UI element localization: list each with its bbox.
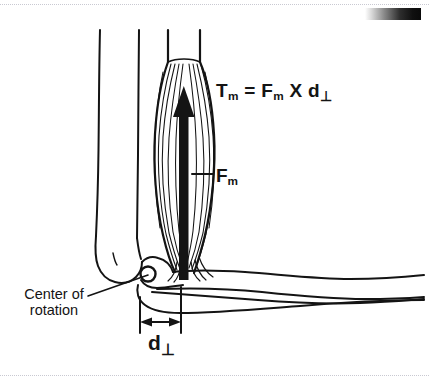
distance-symbol: d	[308, 80, 320, 101]
radius-bone-outline	[157, 288, 424, 299]
olecranon-fossa-marking	[113, 253, 117, 265]
distal-humerus-outline	[95, 236, 142, 283]
center-of-rotation-line-1: Center of	[24, 286, 84, 302]
moment-arm-label: d⊥	[148, 332, 175, 358]
center-of-rotation-leader-line	[88, 275, 148, 296]
biceps-proximal-tendon-junction	[168, 59, 200, 62]
humerus-distal-edge	[137, 238, 141, 259]
moment-arm-symbol: d	[148, 331, 161, 354]
elbow-joint-center-circle	[141, 267, 156, 282]
force-label-symbol: F	[216, 165, 228, 186]
upper-arm-anterior-outline	[96, 30, 100, 236]
center-of-rotation-label: Center ofrotation	[16, 287, 92, 318]
torque-equation-label: Tm = Fm X d⊥	[216, 81, 332, 104]
torque-subscript: m	[228, 89, 239, 102]
force-symbol: F	[261, 80, 273, 101]
humerus-bone-shaft	[137, 30, 139, 238]
moment-arm-arrow-right-head	[169, 317, 181, 326]
center-of-rotation-line-2: rotation	[30, 302, 78, 318]
force-label-subscript: m	[228, 174, 238, 187]
moment-arm-subscript: ⊥	[161, 341, 175, 358]
muscle-force-label: Fm	[216, 166, 238, 188]
force-subscript: m	[273, 89, 284, 102]
equals-sign: =	[244, 80, 255, 101]
torque-symbol: T	[216, 80, 228, 101]
elbow-biomechanics-illustration	[0, 0, 429, 386]
biceps-belly-left-border	[154, 30, 175, 272]
figure-page: Tm = Fm X d⊥ Fm d⊥ Center ofrotation	[0, 0, 429, 386]
perpendicular-subscript: ⊥	[320, 88, 332, 104]
moment-arm-arrow-left-head	[140, 317, 152, 326]
multiplication-symbol: X	[290, 80, 303, 101]
